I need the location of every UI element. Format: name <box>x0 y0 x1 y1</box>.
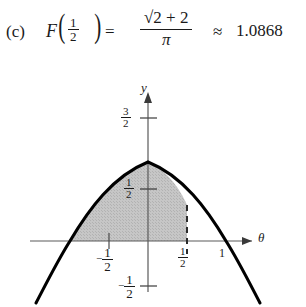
right-paren: ) <box>94 9 101 43</box>
graph-canvas <box>0 58 306 307</box>
graph-figure: y θ 3 2 1 2 −12 −12 1 2 1 <box>0 58 306 307</box>
x-tick-neg-1-2-num: 1 <box>102 246 113 259</box>
x-tick-label-1: 1 <box>219 246 225 261</box>
part-label: (c) <box>6 22 25 42</box>
y-tick-1-2-num: 1 <box>124 177 134 188</box>
figure-root: (c) F ( 1 2 ) = √2 + 2 π ≈ 1.0868 <box>0 0 306 307</box>
x-tick-neg-1-2-den: 2 <box>102 259 113 273</box>
x-tick-neg-1-2-fraction: 12 <box>102 246 113 274</box>
x-tick-label-neg-1-2: −12 <box>96 246 113 274</box>
formula-line: (c) F ( 1 2 ) = √2 + 2 π ≈ 1.0868 <box>0 0 306 62</box>
rhs-fraction: √2 + 2 π <box>140 8 192 50</box>
argument-numerator: 1 <box>68 16 79 29</box>
y-tick-neg-1-2-fraction: 12 <box>124 273 135 301</box>
rhs-numerator: √2 + 2 <box>140 8 192 28</box>
y-tick-3-2-num: 3 <box>121 106 131 117</box>
x-tick-label-1-2: 1 2 <box>178 246 188 269</box>
y-tick-1-2-den: 2 <box>124 188 134 200</box>
y-tick-label-1-2: 1 2 <box>124 177 134 200</box>
rhs-denominator: π <box>140 29 192 50</box>
y-tick-neg-1-2-num: 1 <box>124 273 135 286</box>
x-tick-1-2-num: 1 <box>178 246 188 257</box>
x-axis-label: θ <box>258 230 264 246</box>
y-tick-label-3-2: 3 2 <box>121 106 131 129</box>
y-tick-3-2-den: 2 <box>121 117 131 129</box>
x-tick-1-2-den: 2 <box>178 257 188 269</box>
equals-sign: = <box>105 22 115 42</box>
function-argument-fraction: 1 2 <box>68 16 79 44</box>
function-name: F <box>46 21 57 42</box>
y-tick-label-neg-1-2: −12 <box>118 273 135 301</box>
y-axis-label: y <box>141 80 147 96</box>
approx-symbol: ≈ <box>213 22 222 42</box>
left-paren: ( <box>58 9 65 43</box>
argument-denominator: 2 <box>68 29 79 43</box>
approx-value: 1.0868 <box>236 21 283 41</box>
y-tick-neg-1-2-den: 2 <box>124 286 135 300</box>
